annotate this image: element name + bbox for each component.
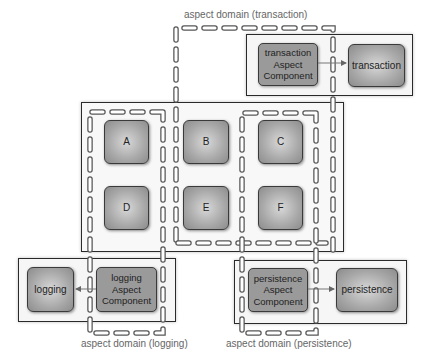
domain-overlay (0, 0, 424, 364)
logging-domain-label: aspect domain (logging) (81, 338, 188, 349)
logging-domain-outline (90, 112, 163, 333)
persistence-domain-outline (242, 113, 316, 333)
transaction-domain-outline (176, 28, 333, 250)
transaction-domain-label: aspect domain (transaction) (184, 9, 307, 20)
persistence-domain-label: aspect domain (persistence) (226, 338, 352, 349)
